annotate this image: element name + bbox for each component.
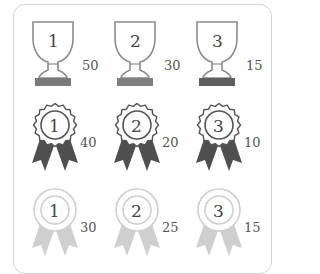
score-value: 40 xyxy=(80,135,97,150)
score-value: 50 xyxy=(82,58,99,73)
score-value: 20 xyxy=(162,135,179,150)
rosette-dark-award-2: 220 xyxy=(112,103,192,183)
rosette-dark-award-3: 310 xyxy=(194,103,274,183)
score-value: 30 xyxy=(164,58,181,73)
rosette-dark-award-1: 140 xyxy=(30,103,110,183)
rosette-light-award-3: 315 xyxy=(194,188,274,268)
rank-number: 3 xyxy=(213,116,224,136)
score-value: 10 xyxy=(244,135,261,150)
rank-number: 1 xyxy=(49,116,60,136)
score-value: 15 xyxy=(246,58,263,73)
rank-number: 3 xyxy=(212,31,223,51)
rank-number: 1 xyxy=(49,201,60,221)
rank-number: 3 xyxy=(213,201,224,221)
score-value: 25 xyxy=(162,220,179,235)
rosette-light-award-2: 225 xyxy=(112,188,192,268)
trophy-award-2: 230 xyxy=(112,18,192,98)
rosette-light-award-1: 130 xyxy=(30,188,110,268)
rank-number: 1 xyxy=(48,31,59,51)
score-value: 15 xyxy=(244,220,261,235)
rank-number: 2 xyxy=(131,201,142,221)
trophy-award-1: 150 xyxy=(30,18,110,98)
trophy-award-3: 315 xyxy=(194,18,274,98)
rank-number: 2 xyxy=(130,31,141,51)
rank-number: 2 xyxy=(131,116,142,136)
score-value: 30 xyxy=(80,220,97,235)
